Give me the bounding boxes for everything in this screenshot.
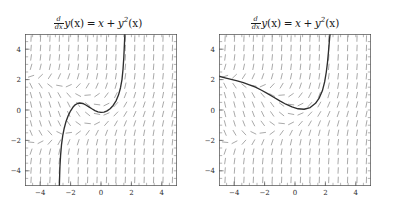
slope-field-tick <box>40 111 42 117</box>
slope-field-tick <box>106 158 107 164</box>
slope-field-tick <box>278 123 284 124</box>
slope-field-tick <box>76 83 80 88</box>
slope-field-tick <box>87 139 89 145</box>
slope-field-tick <box>172 111 173 117</box>
slope-field-tick <box>68 54 69 60</box>
slope-field-tick <box>94 93 99 97</box>
title-math-right: d dx y(x)=x+y2(x) <box>251 9 340 34</box>
slope-field-tick <box>366 148 367 154</box>
slope-field-tick <box>28 142 34 143</box>
slope-field-tick <box>224 83 227 89</box>
slope-field-tick <box>143 120 145 126</box>
slope-field-tick <box>242 74 245 79</box>
slope-field-tick <box>224 64 226 70</box>
slope-field-tick <box>172 130 173 136</box>
slope-field-tick <box>67 102 70 108</box>
slope-field-tick <box>114 92 117 98</box>
slope-field-tick <box>115 139 116 145</box>
x-axis-tick-label: −4 <box>35 189 46 197</box>
slope-field-tick <box>87 64 88 70</box>
slope-field-tick <box>309 130 311 136</box>
slope-field-tick <box>87 148 88 154</box>
slope-field-tick <box>106 64 107 70</box>
slope-field-tick <box>133 111 136 117</box>
slope-field-tick <box>144 64 145 70</box>
fraction-denominator: dx <box>251 23 261 31</box>
slope-field-tick <box>357 64 358 70</box>
slope-field-tick <box>84 95 90 96</box>
slope-field-tick <box>262 73 264 79</box>
plot-panel-right: d dx y(x)=x+y2(x) −4−2024−4−2024 <box>197 0 393 211</box>
slope-field-tick <box>338 73 339 79</box>
slope-field-tick <box>162 101 163 107</box>
slope-field-tick <box>94 113 100 114</box>
slope-field-tick <box>328 83 329 89</box>
slope-field-tick <box>106 73 107 79</box>
x-axis-tick-label: 2 <box>129 189 133 197</box>
slope-field-tick <box>58 139 61 145</box>
slope-field-tick <box>134 130 135 136</box>
slope-field-tick <box>309 83 311 89</box>
title-term-x: x <box>98 17 104 29</box>
slope-field-tick <box>172 148 173 154</box>
slope-field-tick <box>272 158 273 164</box>
slope-field-tick <box>234 54 235 60</box>
slope-field-tick <box>272 64 273 70</box>
slope-field-tick <box>66 84 72 87</box>
slope-field-tick <box>280 130 284 135</box>
title-plus: + <box>106 17 115 29</box>
slope-field-tick <box>40 120 42 126</box>
slope-field-tick <box>298 103 304 106</box>
slope-field-tick <box>106 139 107 145</box>
slope-field-tick <box>224 92 226 98</box>
slope-field-tick <box>48 140 52 145</box>
title-equals: = <box>284 17 293 29</box>
slope-field-tick <box>281 158 282 164</box>
slope-field-tick <box>319 83 321 89</box>
slope-field-tick <box>144 148 145 154</box>
slope-field-tick <box>328 130 329 136</box>
slope-field-tick <box>115 130 117 136</box>
slope-field-tick <box>134 120 136 126</box>
slope-field-tick <box>252 139 255 145</box>
slope-field-tick <box>328 92 330 98</box>
slope-field-tick <box>163 148 164 154</box>
slope-field-tick <box>298 113 304 116</box>
slope-field-tick <box>366 92 367 98</box>
slope-field-tick <box>134 73 135 79</box>
slope-field-tick <box>40 54 41 60</box>
slope-field-tick <box>105 93 109 98</box>
slope-field-tick <box>116 158 117 164</box>
slope-field-tick <box>327 102 330 108</box>
slope-field-tick <box>252 73 255 79</box>
slope-field-tick <box>163 130 164 136</box>
slope-field-tick <box>233 130 236 136</box>
slope-field-tick <box>172 139 173 145</box>
title-term-x: x <box>295 17 301 29</box>
slope-field-tick <box>40 149 42 155</box>
slope-field-tick <box>300 148 301 154</box>
title-math-left: d dx y(x)=x+y2(x) <box>54 9 143 34</box>
slope-field-tick <box>106 148 107 154</box>
slope-field-tick <box>162 111 163 117</box>
slope-field-svg-right <box>219 34 371 186</box>
y-axis-tick-label: 4 <box>17 46 22 54</box>
slope-field-tick <box>309 139 310 145</box>
slope-field-tick <box>124 92 126 98</box>
slope-field-tick <box>56 85 62 86</box>
slope-field-tick <box>30 149 32 155</box>
slope-field-tick <box>347 120 348 126</box>
slope-field-svg-left <box>25 34 177 186</box>
slope-field-tick <box>234 111 236 117</box>
slope-field-tick <box>319 158 320 164</box>
slope-field-tick <box>153 120 154 126</box>
slope-field-tick <box>28 75 34 77</box>
slope-field-tick <box>242 140 246 145</box>
slope-field-tick <box>347 83 348 89</box>
slope-field-tick <box>124 102 127 108</box>
slope-field-tick <box>59 54 60 60</box>
slope-field-tick <box>253 158 254 164</box>
slope-field-tick <box>40 45 41 51</box>
slope-field-tick <box>290 130 293 136</box>
slope-field-tick <box>270 102 274 107</box>
